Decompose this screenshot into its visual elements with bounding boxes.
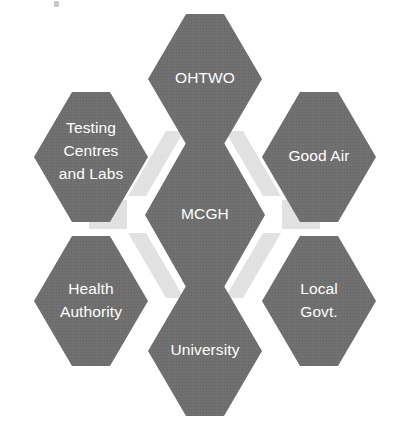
hexagon-label-line-2: Centres [64,142,119,159]
hexagon-label-line-1: University [170,341,239,358]
hexagon-good-air[interactable]: Good Air [262,92,376,222]
hexagon-label-line-1: Health [68,280,113,297]
hexagon-label-line-1: OHTWO [175,69,235,86]
hexagon-shape [34,236,148,366]
hexagon-label-line-1: MCGH [181,205,229,222]
hexagon-label-line-1: Local [300,280,338,297]
hexagon-label-line-2: Authority [60,303,122,320]
hexagon-label-line-3: and Labs [59,165,124,182]
hexagon-label-line-2: Govt. [300,303,338,320]
hexagon-testing-centres-and-labs[interactable]: Testing Centres and Labs [34,92,148,222]
hexagon-ohtwo[interactable]: OHTWO [148,14,262,144]
hexagon-health-authority[interactable]: Health Authority [34,236,148,366]
hexagon-cluster-canvas: Testing Centres and Labs OHTWO Good Air … [0,0,399,429]
honeycomb-diagram: Testing Centres and Labs OHTWO Good Air … [0,0,399,429]
scan-artifact-mark [54,1,59,7]
hexagon-university[interactable]: University [148,286,262,416]
hexagon-label-line-1: Testing [66,119,116,136]
hexagon-shape [262,236,376,366]
hexagon-label-line-1: Good Air [288,147,349,164]
hexagon-local-govt[interactable]: Local Govt. [262,236,376,366]
